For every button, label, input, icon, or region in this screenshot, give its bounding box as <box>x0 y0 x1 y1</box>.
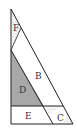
label-e: E <box>25 111 32 121</box>
dissection-diagram: F B D E C <box>0 0 77 134</box>
label-d: D <box>19 85 26 95</box>
label-c: C <box>57 113 64 123</box>
label-f: F <box>13 23 19 33</box>
label-b: B <box>35 71 42 81</box>
